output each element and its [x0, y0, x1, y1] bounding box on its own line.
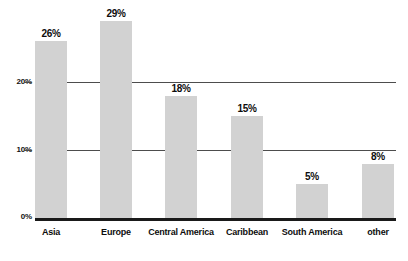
x-label-other: other [342, 227, 408, 238]
x-label-caribbean: Caribbean [211, 227, 283, 238]
value-label-other: 8% [350, 151, 406, 162]
y-tick-mark-10 [24, 150, 32, 151]
x-axis-baseline [35, 218, 396, 221]
value-label-europe: 29% [88, 8, 144, 19]
x-label-south-america: South America [276, 227, 348, 238]
bar-asia[interactable] [35, 41, 67, 218]
bars [35, 0, 396, 218]
y-tick-mark-20 [24, 82, 32, 83]
bar-europe[interactable] [100, 21, 132, 218]
x-label-asia: Asia [15, 227, 87, 238]
bar-south-america[interactable] [296, 184, 328, 218]
value-label-caribbean: 15% [219, 103, 275, 114]
y-tick-label-0: 0% [8, 213, 32, 221]
bar-central-america[interactable] [165, 96, 197, 218]
bar-other[interactable] [362, 164, 394, 218]
value-label-central-america: 18% [153, 83, 209, 94]
value-label-south-america: 5% [284, 171, 340, 182]
bar-caribbean[interactable] [231, 116, 263, 218]
x-axis-labels: Asia Europe Central America Caribbean So… [35, 227, 396, 257]
x-label-central-america: Central America [145, 227, 217, 238]
bar-chart: 20% 10% 0% 26% 29% 18% 15% 5% 8% Asia Eu… [0, 0, 408, 261]
value-label-asia: 26% [23, 28, 79, 39]
x-label-europe: Europe [80, 227, 152, 238]
